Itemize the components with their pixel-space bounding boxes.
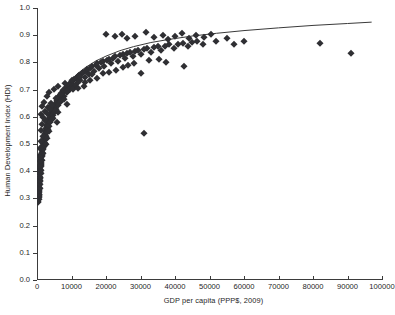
y-tick-label: 0.9 [19, 30, 30, 39]
data-point [137, 69, 143, 75]
y-tick-label: 0.1 [19, 248, 30, 257]
data-point [130, 60, 136, 66]
y-tick-label: 0.4 [19, 166, 30, 175]
x-tick-label: 90000 [337, 282, 358, 291]
data-point [151, 34, 157, 40]
y-tick-label: 0.2 [19, 221, 30, 230]
y-tick-label: 0.5 [19, 139, 30, 148]
x-tick-label: 0 [35, 282, 39, 291]
data-point [208, 31, 214, 37]
x-tick: 100000 [382, 276, 383, 280]
data-point [192, 32, 198, 38]
data-point [146, 57, 152, 63]
data-point [213, 38, 219, 44]
data-point [180, 63, 186, 69]
data-point [103, 31, 109, 37]
data-point [63, 100, 69, 106]
x-tick-label: 20000 [95, 282, 116, 291]
y-tick-label: 0.6 [19, 112, 30, 121]
y-tick-label: 1.0 [19, 3, 30, 12]
data-point [348, 50, 354, 56]
data-point [54, 118, 60, 124]
data-points-layer [37, 8, 382, 280]
data-point [114, 58, 120, 64]
x-tick-label: 50000 [199, 282, 220, 291]
data-point [94, 75, 100, 81]
data-point [111, 32, 117, 38]
plot-area: 0.00.10.20.30.40.50.60.70.80.91.0 010000… [37, 8, 382, 280]
x-tick-label: 100000 [369, 282, 394, 291]
data-point [199, 41, 205, 47]
data-point [141, 130, 147, 136]
data-point [113, 67, 119, 73]
data-point [118, 30, 124, 36]
y-tick-label: 0.0 [19, 275, 30, 284]
y-axis-title: Human Development Index (HDI) [0, 0, 14, 280]
y-tick-label: 0.8 [19, 57, 30, 66]
data-point [172, 32, 178, 38]
data-point [179, 30, 185, 36]
x-tick-label: 30000 [130, 282, 151, 291]
x-axis-title: GDP per capita (PPP$, 2009) [0, 296, 389, 305]
x-tick-label: 60000 [233, 282, 254, 291]
x-tick-label: 40000 [164, 282, 185, 291]
data-point [317, 40, 323, 46]
y-tick-label: 0.3 [19, 193, 30, 202]
data-point [163, 59, 169, 65]
data-point [44, 135, 50, 141]
data-point [123, 35, 129, 41]
x-tick-label: 10000 [61, 282, 82, 291]
y-tick-label: 0.7 [19, 85, 30, 94]
data-point [241, 37, 247, 43]
data-point [80, 83, 86, 89]
data-point [224, 35, 230, 41]
x-tick-label: 80000 [302, 282, 323, 291]
data-point [230, 41, 236, 47]
x-tick-label: 70000 [268, 282, 289, 291]
data-point [142, 29, 148, 35]
data-point [132, 33, 138, 39]
data-point [201, 34, 207, 40]
y-axis-title-text: Human Development Index (HDI) [3, 84, 12, 196]
